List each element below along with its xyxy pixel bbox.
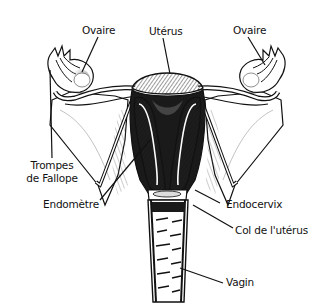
label-vagina: Vagin: [226, 276, 254, 288]
label-cervix: Col de l'utérus: [235, 224, 308, 236]
label-endocervix: Endocervix: [226, 198, 282, 210]
label-fallopian-tubes-line1: Trompes: [21, 159, 83, 171]
label-ovary-right: Ovaire: [233, 24, 266, 36]
label-uterus: Utérus: [149, 25, 183, 37]
uterus-fundus: [132, 73, 203, 94]
label-ovary-left: Ovaire: [82, 24, 115, 36]
label-fallopian-tubes-line2: de Fallope: [17, 172, 87, 184]
label-endometrium: Endomètre: [43, 198, 99, 210]
anatomy-illustration: [0, 0, 333, 306]
ovary-left: [48, 46, 93, 92]
ovary-right: [240, 46, 285, 92]
